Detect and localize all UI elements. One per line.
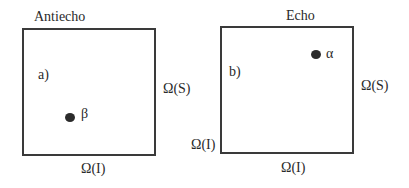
alpha-point: [311, 50, 321, 59]
echo-box: [220, 26, 354, 154]
panel-a-tag: a): [38, 67, 49, 83]
echo-corner-label: Ω(I): [191, 137, 215, 153]
echo-title: Echo: [286, 8, 315, 24]
antiecho-right-axis-label: Ω(S): [163, 81, 191, 97]
antiecho-title: Antiecho: [34, 9, 85, 25]
beta-label: β: [81, 106, 88, 122]
alpha-label: α: [326, 46, 333, 62]
antiecho-bottom-axis-label: Ω(I): [81, 161, 105, 177]
beta-point: [65, 113, 75, 122]
panel-b-tag: b): [229, 64, 241, 80]
antiecho-box: [22, 28, 156, 156]
echo-right-axis-label: Ω(S): [361, 78, 389, 94]
echo-bottom-axis-label: Ω(I): [281, 160, 305, 176]
